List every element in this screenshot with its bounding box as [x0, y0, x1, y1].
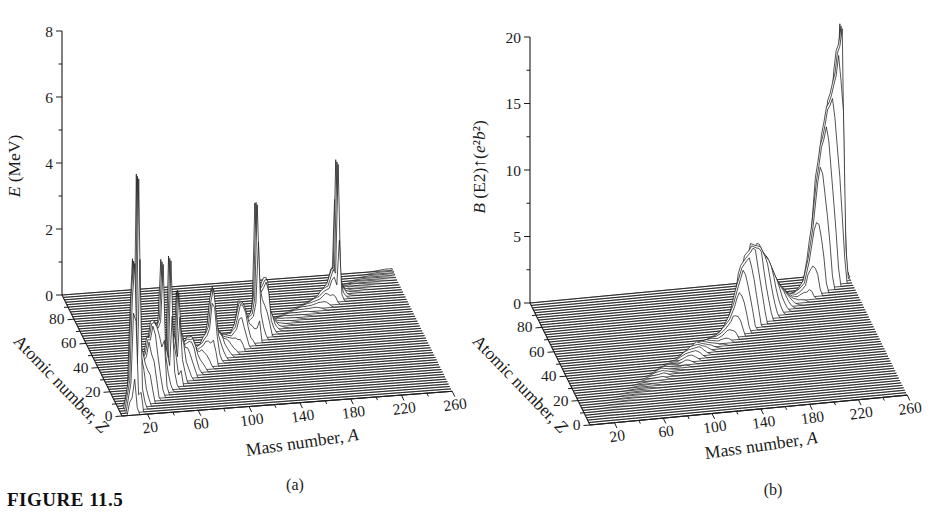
svg-text:40: 40	[541, 367, 557, 384]
svg-text:0: 0	[513, 295, 521, 312]
panel-b: 2060100140180220260Mass number, A0204060…	[469, 24, 923, 463]
svg-text:6: 6	[45, 89, 53, 106]
svg-text:180: 180	[341, 402, 367, 422]
panel-a-x-axis: 2060100140180220260Mass number, A	[122, 391, 468, 460]
svg-text:220: 220	[392, 398, 418, 418]
svg-text:5: 5	[513, 228, 521, 245]
svg-text:100: 100	[702, 416, 728, 436]
panel-b-y-axis: 05101520B (E2)↑(e²b²)	[469, 29, 530, 312]
svg-text:140: 140	[290, 406, 316, 426]
panel-a-y-axis: 02468E (MeV)	[4, 23, 62, 304]
svg-text:60: 60	[529, 343, 545, 360]
panel-a-z-axis: 020406080Atomic number, Z	[10, 295, 122, 437]
svg-text:0: 0	[573, 416, 581, 433]
figure-11-5-page: 2060100140180220260Mass number, A0204060…	[0, 0, 934, 518]
svg-text:220: 220	[849, 403, 875, 423]
panel-a-y-title: E (MeV)	[4, 134, 24, 198]
svg-text:100: 100	[239, 409, 265, 429]
panel-a: 2060100140180220260Mass number, A0204060…	[4, 23, 468, 460]
svg-text:60: 60	[192, 414, 210, 433]
panel-b-label: (b)	[743, 481, 803, 499]
panel-b-surface	[530, 24, 907, 425]
svg-text:80: 80	[517, 318, 533, 335]
svg-text:260: 260	[442, 394, 468, 414]
svg-text:80: 80	[49, 310, 65, 327]
svg-text:60: 60	[61, 334, 77, 351]
svg-text:60: 60	[657, 422, 675, 441]
svg-text:20: 20	[506, 29, 522, 46]
svg-text:20: 20	[141, 418, 159, 437]
svg-text:20: 20	[608, 426, 626, 445]
svg-text:15: 15	[506, 95, 522, 112]
waterfall-plots-svg: 2060100140180220260Mass number, A0204060…	[0, 0, 934, 518]
panel-a-label: (a)	[265, 476, 325, 494]
svg-text:0: 0	[45, 287, 53, 304]
svg-text:180: 180	[800, 407, 826, 427]
svg-text:10: 10	[506, 162, 522, 179]
panel-b-y-title: B (E2)↑(e²b²)	[469, 120, 489, 214]
figure-caption: FIGURE 11.5	[7, 489, 123, 511]
svg-text:140: 140	[751, 412, 777, 432]
svg-text:4: 4	[45, 155, 53, 172]
svg-text:40: 40	[73, 359, 89, 376]
svg-text:2: 2	[45, 221, 53, 238]
svg-text:8: 8	[45, 23, 53, 40]
panel-a-surface	[62, 160, 452, 416]
panel-b-z-axis: 020406080Atomic number, Z	[469, 303, 590, 437]
svg-text:260: 260	[897, 398, 923, 418]
panel-a-x-title: Mass number, A	[245, 424, 361, 460]
